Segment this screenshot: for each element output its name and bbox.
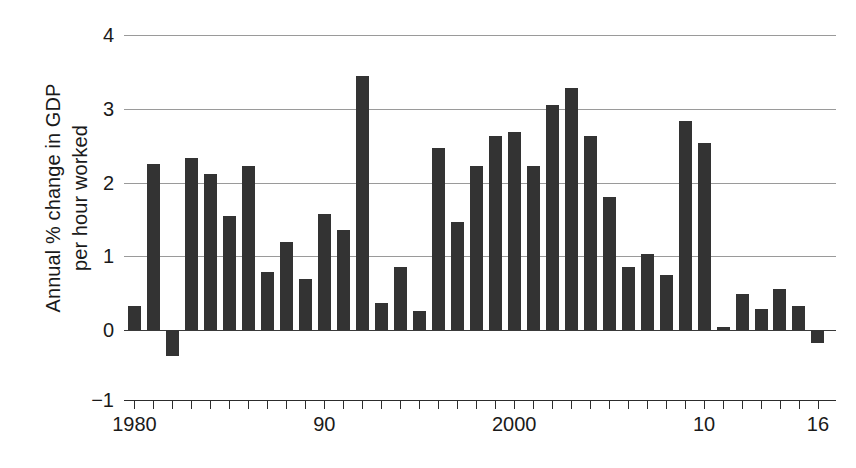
y-axis-tick-label-3: 3 xyxy=(84,99,114,119)
x-axis-tick-1999 xyxy=(495,401,496,409)
x-axis-tick-2015 xyxy=(799,401,800,409)
bar-1988 xyxy=(280,242,293,331)
x-axis-tick-1986 xyxy=(248,401,249,409)
x-axis-tick-1990 xyxy=(324,401,325,409)
y-axis-tick-labels: 01234 xyxy=(82,35,114,330)
x-axis-tick-2016 xyxy=(818,401,819,409)
x-axis-tick-1994 xyxy=(400,401,401,409)
bar-2006 xyxy=(622,267,635,330)
y-axis-tick-label-4: 4 xyxy=(84,25,114,45)
bar-2000 xyxy=(508,132,521,330)
bar-1998 xyxy=(470,166,483,330)
y-axis-title-line-1: Annual % change in GDP xyxy=(40,28,67,368)
bar-2001 xyxy=(527,166,540,330)
x-axis-tick-1992 xyxy=(362,401,363,409)
plot-area xyxy=(124,35,836,330)
x-axis-tick-label-1990: 90 xyxy=(313,412,335,436)
x-axis-tick-1997 xyxy=(457,401,458,409)
bar-1981 xyxy=(147,164,160,330)
bar-1987 xyxy=(261,272,274,330)
x-axis-tick-1981 xyxy=(153,401,154,409)
bar-2005 xyxy=(603,197,616,330)
bar-1992 xyxy=(356,76,369,330)
x-axis-tick-2013 xyxy=(761,401,762,409)
bar-2016 xyxy=(811,330,824,343)
x-axis-tick-1996 xyxy=(438,401,439,409)
bar-2003 xyxy=(565,88,578,330)
gridline-4 xyxy=(124,35,836,36)
x-axis-tick-label-1980: 1980 xyxy=(112,412,157,436)
x-axis-tick-2000 xyxy=(514,401,515,409)
gridline-3 xyxy=(124,109,836,110)
bar-1991 xyxy=(337,230,350,330)
x-axis-tick-1985 xyxy=(229,401,230,409)
y-axis-tick-label-0: 0 xyxy=(84,320,114,340)
x-axis-tick-labels: 19809020001016 xyxy=(124,412,856,442)
bar-1985 xyxy=(223,216,236,330)
x-axis-tick-label-2000: 2000 xyxy=(492,412,537,436)
bar-2004 xyxy=(584,136,597,330)
x-axis-tick-1989 xyxy=(305,401,306,409)
bar-1983 xyxy=(185,158,198,330)
x-axis-tick-2007 xyxy=(647,401,648,409)
x-axis-tick-1988 xyxy=(286,401,287,409)
bar-1986 xyxy=(242,166,255,330)
x-axis-tick-2010 xyxy=(704,401,705,409)
bar-2008 xyxy=(660,275,673,330)
x-axis-tick-1998 xyxy=(476,401,477,409)
bar-1984 xyxy=(204,174,217,330)
x-axis-tick-2005 xyxy=(609,401,610,409)
x-axis-tick-1982 xyxy=(172,401,173,409)
bar-2011 xyxy=(717,327,730,330)
x-axis-tick-1983 xyxy=(191,401,192,409)
bar-1989 xyxy=(299,279,312,330)
x-axis-tick-2001 xyxy=(533,401,534,409)
x-axis-tick-2008 xyxy=(666,401,667,409)
x-axis-tick-label-2016: 16 xyxy=(807,412,829,436)
x-axis-tick-1987 xyxy=(267,401,268,409)
y-axis-tick-label-1: 1 xyxy=(84,246,114,266)
x-axis-tick-1993 xyxy=(381,401,382,409)
y-axis-tick-label-minus-1: −1 xyxy=(82,390,114,410)
bar-1982 xyxy=(166,330,179,356)
x-axis-tick-2014 xyxy=(780,401,781,409)
x-axis-tick-2012 xyxy=(742,401,743,409)
bar-2002 xyxy=(546,105,559,330)
x-axis-tick-1984 xyxy=(210,401,211,409)
bar-2014 xyxy=(773,289,786,330)
x-axis-tick-1995 xyxy=(419,401,420,409)
x-axis-tick-1980 xyxy=(134,401,135,409)
bar-2009 xyxy=(679,121,692,330)
y-axis-tick-label-2: 2 xyxy=(84,173,114,193)
bar-2012 xyxy=(736,294,749,330)
x-axis-tick-2009 xyxy=(685,401,686,409)
x-axis-tick-label-2010: 10 xyxy=(693,412,715,436)
x-axis-tick-1991 xyxy=(343,401,344,409)
bar-1993 xyxy=(375,303,388,330)
bar-1999 xyxy=(489,136,502,330)
productivity-growth-bar-chart: Annual % change in GDP per hour worked 0… xyxy=(0,0,856,468)
gridline-0 xyxy=(124,330,836,331)
x-axis-tick-2004 xyxy=(590,401,591,409)
bar-1997 xyxy=(451,222,464,330)
bar-1990 xyxy=(318,214,331,330)
bar-1996 xyxy=(432,148,445,330)
bar-1980 xyxy=(128,306,141,330)
bar-2015 xyxy=(792,306,805,330)
x-axis-tick-2003 xyxy=(571,401,572,409)
bar-1995 xyxy=(413,311,426,330)
bar-1994 xyxy=(394,267,407,330)
bar-2010 xyxy=(698,143,711,330)
x-axis-tick-2006 xyxy=(628,401,629,409)
x-axis-tick-2011 xyxy=(723,401,724,409)
bar-2007 xyxy=(641,254,654,330)
x-axis-tick-2002 xyxy=(552,401,553,409)
bar-2013 xyxy=(755,309,768,330)
x-axis-line xyxy=(124,400,836,401)
